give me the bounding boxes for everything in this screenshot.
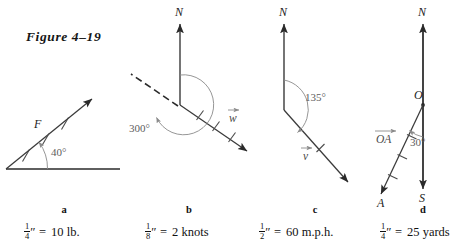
panel-letter-d: d xyxy=(403,204,443,215)
panel-d-origin-label: O xyxy=(414,88,423,102)
panel-d-south-label: S xyxy=(419,191,425,205)
panel-d-vector-label: OA xyxy=(376,133,392,145)
panel-letter-b: b xyxy=(169,204,209,215)
panel-a-angle-label: 40° xyxy=(51,146,66,158)
panel-c-angle-label: 135° xyxy=(305,91,326,103)
panel-b-vector-label-group: w xyxy=(228,110,239,124)
panel-caption-b: 1 8 ″=2 knots xyxy=(145,222,209,240)
panel-b-dashed-extension xyxy=(131,74,178,106)
panel-c-equals: = xyxy=(274,225,281,239)
figure-page: Figure 4–19 F 40° xyxy=(0,0,471,247)
panel-b-inch-mark: ″ xyxy=(151,225,156,239)
panel-c-drawing: N 135° v xyxy=(278,5,348,182)
panel-d-scale-value: 25 yards xyxy=(407,225,450,239)
panel-caption-a: 1 4 ″=10 lb. xyxy=(24,222,80,240)
panel-b-scale-value: 2 knots xyxy=(172,225,208,239)
panel-letter-a: a xyxy=(44,204,84,215)
panel-b-angle-arc xyxy=(157,75,214,135)
panel-caption-c: 1 2 ″=60 m.p.h. xyxy=(259,222,333,240)
panel-a-drawing: F 40° xyxy=(6,99,120,169)
panel-d-vector-label-group: OA xyxy=(375,131,396,145)
panel-a-equals: = xyxy=(39,225,46,239)
panel-c-vector-label-group: v xyxy=(301,148,312,162)
panel-letter-c: c xyxy=(295,204,335,215)
panel-caption-d: 1 4 ″=25 yards xyxy=(380,222,450,240)
panel-d-endpoint-label: A xyxy=(376,196,385,210)
panel-a-angle-arc xyxy=(39,142,48,169)
panel-d-inch-mark: ″ xyxy=(386,225,391,239)
panel-c-scale-value: 60 m.p.h. xyxy=(286,225,333,239)
panel-a-vector-label: F xyxy=(33,117,42,131)
panel-c-inch-mark: ″ xyxy=(265,225,270,239)
panel-d-angle-label: 30° xyxy=(410,136,425,148)
panel-c-vector-label: v xyxy=(303,150,309,162)
panel-b-north-label: N xyxy=(174,5,184,19)
panel-b-drawing: N 300° w xyxy=(129,5,247,151)
panel-b-equals: = xyxy=(160,225,167,239)
panel-d-north-label: N xyxy=(417,5,427,19)
panel-c-velocity-vector xyxy=(284,110,348,182)
panel-d-equals: = xyxy=(395,225,402,239)
panel-c-north-label: N xyxy=(278,5,288,19)
panel-a-inch-mark: ″ xyxy=(30,225,35,239)
panel-b-wind-vector xyxy=(180,105,247,151)
panel-d-oa-vector xyxy=(381,105,423,194)
panel-b-angle-label: 300° xyxy=(129,122,150,134)
panel-d-drawing: N S O A 30° OA xyxy=(375,5,427,210)
panel-b-vector-label: w xyxy=(229,112,237,124)
panel-c-angle-arc xyxy=(284,80,308,133)
panel-a-scale-value: 10 lb. xyxy=(51,225,79,239)
